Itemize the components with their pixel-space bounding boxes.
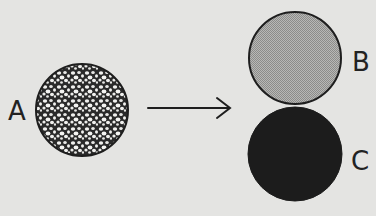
label-c: C bbox=[351, 146, 369, 176]
diagram-canvas: A B C bbox=[0, 0, 376, 216]
diagram-stage: A B C bbox=[0, 0, 376, 216]
label-a: A bbox=[8, 96, 26, 126]
circle-b bbox=[249, 12, 341, 104]
label-b: B bbox=[352, 47, 370, 77]
arrow-icon bbox=[148, 98, 230, 118]
circle-c bbox=[248, 107, 342, 201]
circle-a bbox=[36, 64, 128, 156]
